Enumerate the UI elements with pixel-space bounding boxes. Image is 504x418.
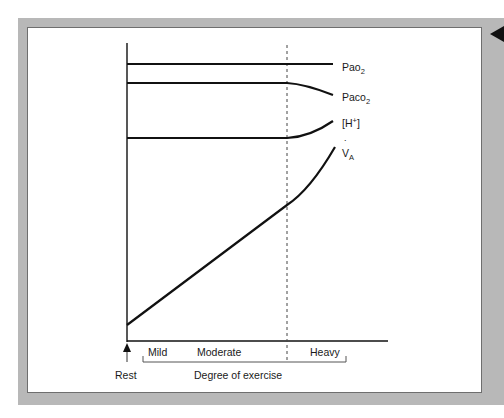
rest-arrow-icon [123,343,131,352]
label-va-dot: ˙ [344,138,348,150]
label-paco2: Paco2 [342,91,370,106]
va-curve [127,147,335,325]
rest-label: Rest [115,369,137,381]
region-heavy: Heavy [310,346,341,358]
h-ion-curve [127,121,333,138]
label-h-ion: [H+] [342,116,360,129]
region-moderate: Moderate [197,346,242,358]
label-pao2: Pao2 [342,61,365,76]
chart: Pao2 Paco2 [H+] VA ˙ Mild Moderate Heavy… [0,0,504,418]
x-axis-title: Degree of exercise [194,369,282,381]
region-mild: Mild [148,346,167,358]
paco2-curve [127,83,333,95]
